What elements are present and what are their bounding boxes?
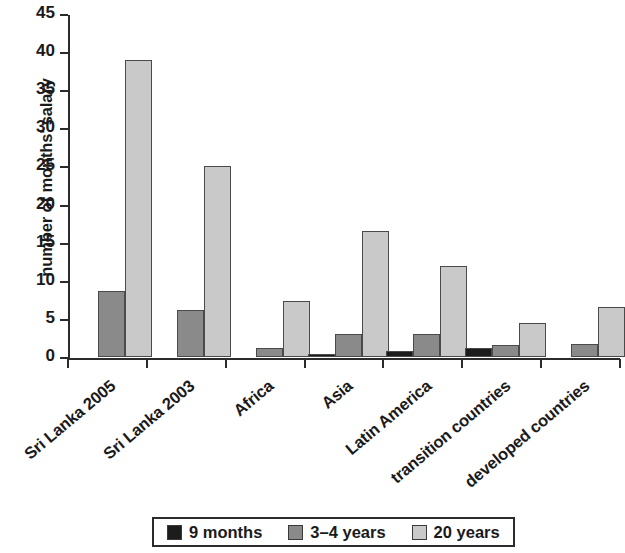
y-tick: 35 — [60, 90, 68, 92]
x-tick — [540, 359, 542, 368]
y-tick: 30 — [60, 128, 68, 130]
y-tick-label: 20 — [36, 194, 55, 214]
y-tick-label: 5 — [46, 308, 55, 328]
y-tick: 25 — [60, 166, 68, 168]
legend-item: 3–4 years — [288, 523, 385, 542]
x-tick — [619, 359, 621, 368]
legend-item: 9 months — [167, 523, 262, 542]
bar — [335, 334, 362, 357]
y-tick-label: 15 — [36, 232, 55, 252]
bar — [598, 307, 625, 357]
bar — [308, 354, 335, 357]
legend-swatch-icon — [167, 525, 182, 540]
bar — [386, 351, 413, 357]
bar — [125, 60, 152, 357]
x-tick — [146, 359, 148, 368]
legend-swatch-icon — [288, 525, 303, 540]
y-tick: 20 — [60, 205, 68, 207]
bar — [362, 231, 389, 357]
bar — [256, 348, 283, 357]
legend-label: 3–4 years — [310, 523, 385, 542]
y-tick: 40 — [60, 52, 68, 54]
y-tick: 15 — [60, 243, 68, 245]
bar — [98, 291, 125, 357]
y-tick: 45 — [60, 14, 68, 16]
y-tick-label: 30 — [36, 117, 55, 137]
y-tick: 5 — [60, 319, 68, 321]
y-tick-label: 40 — [36, 41, 55, 61]
x-tick — [461, 359, 463, 368]
y-tick-label: 10 — [36, 270, 55, 290]
bar-chart: number of months' salary 051015202530354… — [0, 0, 625, 553]
y-tick-label: 45 — [36, 3, 55, 23]
plot-area: 051015202530354045 — [68, 15, 620, 358]
bar — [204, 166, 231, 357]
y-axis-line — [68, 15, 70, 359]
bar — [571, 344, 598, 357]
x-tick — [67, 359, 69, 368]
legend-label: 20 years — [434, 523, 500, 542]
bar — [440, 266, 467, 357]
legend-item: 20 years — [412, 523, 500, 542]
x-tick — [304, 359, 306, 368]
bar — [492, 345, 519, 357]
legend-swatch-icon — [412, 525, 427, 540]
chart-legend: 9 months3–4 years20 years — [152, 517, 515, 547]
x-tick — [225, 359, 227, 368]
legend-label: 9 months — [189, 523, 262, 542]
bar — [413, 334, 440, 357]
y-tick-label: 0 — [46, 346, 55, 366]
y-tick-label: 25 — [36, 155, 55, 175]
bar — [177, 310, 204, 357]
bar — [465, 348, 492, 357]
bar — [519, 323, 546, 357]
y-tick-label: 35 — [36, 79, 55, 99]
x-tick — [382, 359, 384, 368]
y-tick: 10 — [60, 281, 68, 283]
bar — [283, 301, 310, 357]
x-axis-line — [68, 358, 620, 360]
